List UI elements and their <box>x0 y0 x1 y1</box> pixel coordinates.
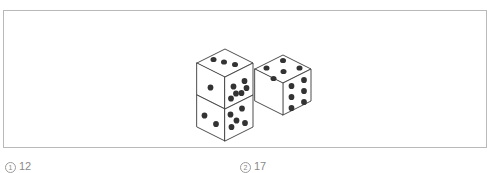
caption-right: 217 <box>240 160 266 173</box>
upper-left-die-left-pips <box>208 84 214 90</box>
caption-left-marker: 1 <box>5 162 16 173</box>
caption-left-text: 12 <box>19 160 31 172</box>
figure-root: 112 217 <box>0 0 491 173</box>
dice-figure <box>187 35 317 153</box>
illustration-frame <box>3 10 487 148</box>
caption-left: 112 <box>5 160 31 173</box>
caption-row: 112 217 <box>0 152 491 173</box>
caption-right-text: 17 <box>254 160 266 172</box>
dice-faces-group <box>197 49 311 141</box>
caption-right-marker: 2 <box>240 162 251 173</box>
